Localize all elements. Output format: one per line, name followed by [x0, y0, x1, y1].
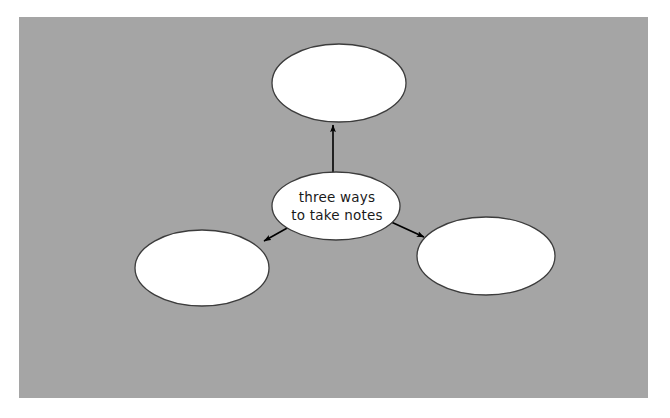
arrow-center-to-bottom-left: [264, 227, 289, 241]
top-node-shape[interactable]: [272, 44, 406, 122]
concept-map-diagram: three ways to take notes: [0, 0, 670, 418]
center-node-label-line1: three ways: [299, 189, 375, 205]
arrow-center-to-bottom-right: [389, 221, 424, 237]
center-node-label-line2: to take notes: [291, 207, 382, 223]
bottom-left-node-shape[interactable]: [135, 230, 269, 306]
bottom-left-node[interactable]: [135, 230, 269, 306]
center-node[interactable]: three ways to take notes: [272, 172, 400, 240]
bottom-right-node-shape[interactable]: [417, 217, 555, 295]
bottom-right-node[interactable]: [417, 217, 555, 295]
page-root: three ways to take notes: [0, 0, 670, 418]
center-node-shape[interactable]: [272, 172, 400, 240]
top-node[interactable]: [272, 44, 406, 122]
